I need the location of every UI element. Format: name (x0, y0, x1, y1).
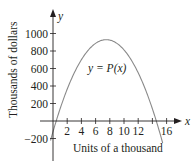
y-tick-label: 600 (31, 63, 49, 75)
chart-canvas: x y 2468101216 −2002004006008001000 y = … (0, 0, 196, 162)
y-tick-label: 200 (31, 98, 49, 110)
x-tick-label: 6 (93, 125, 99, 137)
x-axis-arrow-icon (174, 118, 182, 124)
y-axis-title: Thousands of dollars (7, 21, 19, 118)
y-ticks: −2002004006008001000 (24, 28, 56, 145)
curve-label: y = P(x) (87, 62, 127, 75)
x-axis-symbol: x (184, 115, 191, 127)
x-tick-label: 10 (118, 125, 130, 137)
y-tick-label: 1000 (25, 28, 48, 40)
y-tick-label: 400 (31, 80, 49, 92)
x-tick-label: 8 (107, 125, 113, 137)
x-axis-title: Units of a thousand (73, 142, 163, 154)
x-tick-label: 12 (132, 125, 144, 137)
y-axis-symbol: y (57, 10, 64, 23)
x-tick-label: 2 (64, 125, 70, 137)
y-tick-label: −200 (24, 133, 48, 145)
y-axis-arrow-icon (50, 9, 56, 17)
y-tick-label: 800 (31, 45, 49, 57)
x-tick-label: 16 (161, 125, 173, 137)
x-tick-label: 4 (79, 125, 85, 137)
